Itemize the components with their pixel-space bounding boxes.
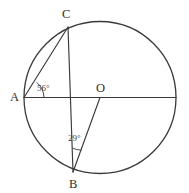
- vertex-label-b: B: [69, 178, 77, 191]
- angle-label-at-a: 56°: [37, 84, 50, 93]
- angle-label-at-b: 29°: [68, 134, 81, 143]
- vertex-label-o: O: [96, 82, 105, 95]
- geometry-canvas: [0, 0, 189, 193]
- vertex-label-a: A: [10, 91, 19, 104]
- chord-line-CB: [68, 27, 73, 172]
- geometry-diagram: A B C O 56° 29°: [0, 0, 189, 193]
- angle-arc-at-B: [72, 148, 81, 150]
- vertex-label-c: C: [62, 8, 70, 21]
